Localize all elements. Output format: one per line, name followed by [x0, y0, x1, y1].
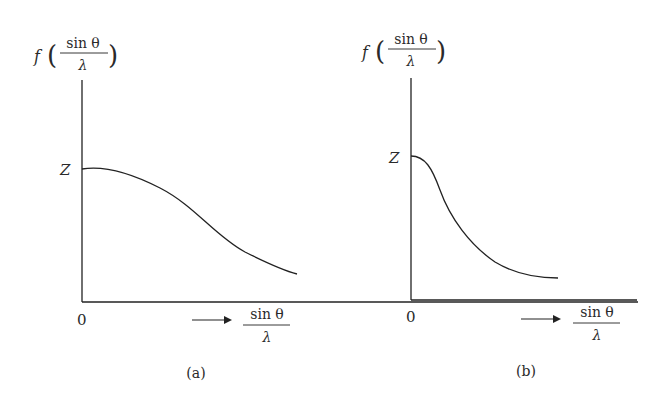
panel-a: f ( sin θ λ ) Z 0 sin θ λ (a)	[33, 35, 638, 381]
origin-label: 0	[406, 308, 416, 326]
y-label-den: λ	[406, 53, 416, 69]
curve-b	[411, 156, 558, 278]
panel-label-b: (b)	[516, 363, 536, 379]
x-label-num: sin θ	[250, 306, 284, 322]
paren-close: )	[436, 36, 446, 66]
y-label-func: f	[33, 47, 43, 66]
y-label-num: sin θ	[66, 35, 100, 51]
curve-a	[82, 168, 297, 274]
x-label-num: sin θ	[580, 304, 614, 320]
panel-label-a: (a)	[186, 365, 205, 381]
x-label-den: λ	[262, 329, 272, 345]
figure: f ( sin θ λ ) Z 0 sin θ λ (a) f ( sin θ …	[0, 0, 658, 411]
paren-close: )	[108, 40, 118, 70]
y-tick-z: Z	[59, 161, 71, 179]
paren-open: (	[375, 36, 385, 66]
arrow-icon	[553, 315, 561, 323]
arrow-icon	[224, 316, 232, 324]
y-label-den: λ	[78, 57, 88, 73]
paren-open: (	[47, 40, 57, 70]
x-label-den: λ	[592, 327, 602, 343]
panel-b: f ( sin θ λ ) Z 0 sin θ λ (b)	[361, 31, 637, 379]
origin-label: 0	[77, 311, 87, 329]
y-label-func: f	[361, 43, 371, 62]
y-tick-z: Z	[388, 149, 400, 167]
y-label-num: sin θ	[394, 31, 428, 47]
